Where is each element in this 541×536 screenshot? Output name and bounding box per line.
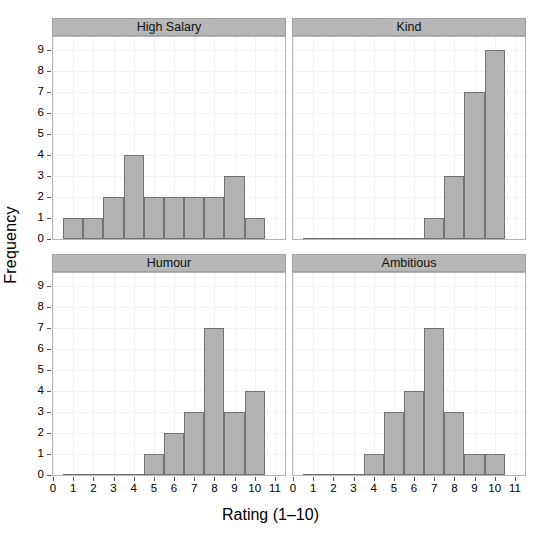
y-axis: 0123456789 [28, 273, 52, 475]
histogram-bar [124, 155, 144, 239]
gridline-horizontal [53, 307, 285, 308]
y-tick-mark [47, 176, 51, 177]
gridline-vertical [255, 37, 256, 239]
panel-strip-label: Humour [52, 254, 286, 272]
y-tick-mark [47, 370, 51, 371]
y-tick-label: 8 [30, 65, 44, 77]
gridline-horizontal [53, 50, 285, 51]
gridline-vertical [53, 273, 54, 475]
panel-strip-label: Kind [292, 18, 526, 36]
gridline-horizontal [293, 328, 525, 329]
y-tick-mark [47, 113, 51, 114]
x-axis: 01234567891011 [293, 476, 525, 496]
y-tick-label: 0 [30, 233, 44, 245]
y-tick-mark [47, 412, 51, 413]
panel-plot-area [52, 36, 286, 240]
gridline-vertical [313, 273, 314, 475]
x-tick-label: 11 [505, 482, 525, 494]
gridline-vertical [515, 273, 516, 475]
gridline-vertical [114, 273, 115, 475]
x-tick-mark [275, 477, 276, 481]
y-tick-label: 1 [30, 212, 44, 224]
x-tick-mark [434, 477, 435, 481]
y-axis-title-label: Frequency [2, 206, 20, 283]
x-tick-mark [235, 477, 236, 481]
histogram-bar [464, 454, 485, 475]
gridline-vertical [275, 37, 276, 239]
panel-strip-label: High Salary [52, 18, 286, 36]
histogram-bar [63, 218, 83, 239]
y-tick-mark [47, 218, 51, 219]
y-tick-label: 1 [30, 448, 44, 460]
histogram-bar [204, 328, 224, 475]
gridline-vertical [515, 37, 516, 239]
histogram-bar [83, 218, 103, 239]
histogram-bar [204, 197, 224, 239]
x-tick-mark [73, 477, 74, 481]
gridline-horizontal [53, 349, 285, 350]
gridline-vertical [313, 37, 314, 239]
y-tick-mark [47, 433, 51, 434]
gridline-vertical [374, 273, 375, 475]
histogram-bar [184, 197, 204, 239]
panel-plot-area [292, 272, 526, 476]
histogram-bar [444, 176, 464, 239]
histogram-bar [245, 391, 265, 475]
x-tick-mark [454, 477, 455, 481]
y-tick-label: 2 [30, 191, 44, 203]
x-tick-mark [194, 477, 195, 481]
x-tick-mark [333, 477, 334, 481]
x-tick-mark [114, 477, 115, 481]
gridline-vertical [374, 37, 375, 239]
gridline-vertical [275, 273, 276, 475]
gridline-horizontal [53, 92, 285, 93]
y-tick-label: 0 [30, 469, 44, 481]
x-tick-label: 6 [164, 482, 184, 494]
gridline-horizontal [53, 71, 285, 72]
histogram-bar [364, 454, 384, 475]
y-tick-label: 6 [30, 343, 44, 355]
x-tick-label: 5 [384, 482, 404, 494]
gridline-vertical [333, 273, 334, 475]
histogram-bar [485, 454, 505, 475]
y-tick-label: 9 [30, 44, 44, 56]
y-axis: 0123456789 [28, 37, 52, 239]
gridline-horizontal [53, 286, 285, 287]
y-axis-title: Frequency [0, 0, 22, 490]
gridline-vertical [73, 273, 74, 475]
histogram-bar [424, 218, 444, 239]
y-tick-mark [47, 71, 51, 72]
histogram-bar [384, 412, 404, 475]
x-tick-mark [53, 477, 54, 481]
x-tick-mark [374, 477, 375, 481]
y-tick-label: 7 [30, 86, 44, 98]
y-tick-label: 9 [30, 280, 44, 292]
histogram-bar [224, 176, 245, 239]
x-tick-label: 1 [303, 482, 323, 494]
x-tick-label: 8 [444, 482, 464, 494]
x-axis-title-label: Rating (1–10) [222, 506, 319, 523]
x-tick-label: 9 [225, 482, 245, 494]
y-tick-mark [47, 475, 51, 476]
gridline-horizontal [53, 113, 285, 114]
x-tick-label: 7 [184, 482, 204, 494]
gridline-horizontal [293, 286, 525, 287]
x-tick-label: 5 [144, 482, 164, 494]
gridline-horizontal [293, 370, 525, 371]
histogram-bar [164, 433, 184, 475]
y-tick-mark [47, 349, 51, 350]
y-tick-mark [47, 197, 51, 198]
gridline-horizontal [293, 307, 525, 308]
histogram-bar [164, 197, 184, 239]
x-tick-mark [313, 477, 314, 481]
gridline-horizontal [53, 370, 285, 371]
x-tick-label: 0 [283, 482, 303, 494]
gridline-vertical [293, 37, 294, 239]
histogram-bar [424, 328, 444, 475]
y-tick-label: 2 [30, 427, 44, 439]
gridline-vertical [354, 37, 355, 239]
panel-plot-area [292, 36, 526, 240]
x-tick-mark [154, 477, 155, 481]
gridline-horizontal [53, 134, 285, 135]
gridline-horizontal [53, 155, 285, 156]
